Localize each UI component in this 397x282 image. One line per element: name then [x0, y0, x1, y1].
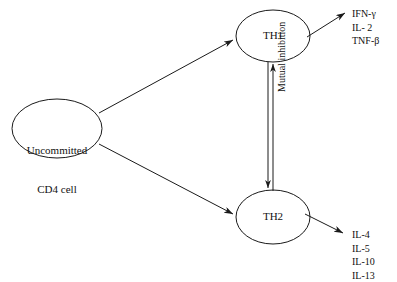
cytokine-item: TNF-β — [352, 34, 379, 48]
edge-th1-to-cytokines — [307, 13, 345, 37]
cytokine-item: IFN-γ — [352, 7, 379, 21]
edge-uncommitted-to-th1 — [99, 40, 233, 113]
diagram-canvas: Uncommitted CD4 cell TH1 TH2 Mutual inhi… — [0, 0, 397, 282]
cytokine-list-th2: IL-4 IL-5 IL-10 IL-13 — [352, 228, 375, 282]
node-label-line-1: Uncommitted — [12, 144, 102, 157]
node-label-th1: TH1 — [236, 29, 310, 42]
edge-label-mutual-inhibition: Mutual inhibition — [276, 22, 287, 92]
node-label-line-2: CD4 cell — [12, 183, 102, 196]
cytokine-item: IL-4 — [352, 228, 375, 242]
cytokine-item: IL- 2 — [352, 21, 379, 35]
cytokine-item: IL-13 — [352, 269, 375, 282]
node-label-uncommitted-cd4-cell: Uncommitted CD4 cell — [12, 118, 102, 222]
cytokine-item: IL-10 — [352, 255, 375, 269]
edge-uncommitted-to-th2 — [99, 144, 233, 214]
node-label-th2: TH2 — [236, 210, 310, 223]
cytokine-item: IL-5 — [352, 242, 375, 256]
edge-th2-to-cytokines — [305, 214, 343, 233]
cytokine-list-th1: IFN-γ IL- 2 TNF-β — [352, 7, 379, 48]
